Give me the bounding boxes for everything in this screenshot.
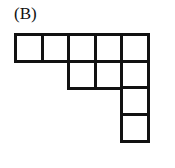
grid-cell xyxy=(67,33,97,63)
grid-cell xyxy=(120,86,150,116)
grid-cell xyxy=(67,60,97,90)
grid-cell xyxy=(120,113,150,143)
square-grid-shape xyxy=(0,0,175,168)
grid-cell xyxy=(120,33,150,63)
grid-cell xyxy=(14,33,44,63)
